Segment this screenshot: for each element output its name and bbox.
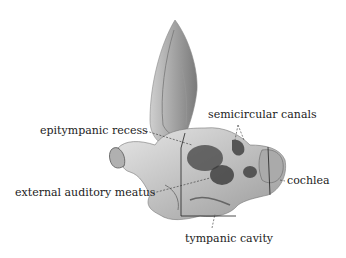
- label-cochlea: cochlea: [287, 175, 330, 187]
- label-semicircular-canals: semicircular canals: [208, 109, 317, 121]
- label-epitympanic-recess: epitympanic recess: [40, 125, 148, 137]
- ear-diagram: semicircular canals epitympanic recess c…: [0, 0, 346, 258]
- label-tympanic-cavity: tympanic cavity: [185, 233, 273, 245]
- temporal-bone: [109, 128, 285, 220]
- label-external-auditory-meatus: external auditory meatus: [15, 187, 155, 199]
